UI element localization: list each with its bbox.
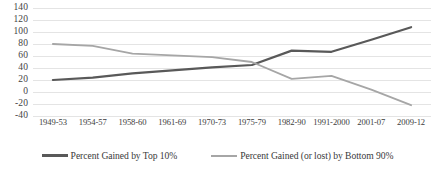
y-axis-tick-label: -40 [0, 111, 28, 121]
x-axis-tick-label: 1970-73 [198, 117, 226, 128]
legend-item[interactable]: Percent Gained by Top 10% [42, 150, 178, 161]
legend-label: Percent Gained (or lost) by Bottom 90% [240, 150, 393, 161]
y-axis-tick-labels: 140120100806040200-20-40 [0, 0, 28, 146]
x-axis-tick-label: 1982-90 [278, 117, 306, 128]
series-line-1 [53, 44, 411, 105]
x-axis-tick-label: 1958-60 [119, 117, 147, 128]
y-axis-tick-label: 20 [0, 75, 28, 85]
x-axis-tick-label: 1954-57 [79, 117, 107, 128]
x-axis-tick-label: 1949-53 [39, 117, 67, 128]
y-axis-tick-label: 40 [0, 63, 28, 73]
x-axis-tick-label: 1975-79 [238, 117, 266, 128]
series-lines [53, 27, 411, 105]
x-axis-tick-label: 1991-2000 [313, 117, 349, 128]
x-axis-tick-label: 1961-69 [158, 117, 186, 128]
legend-label: Percent Gained by Top 10% [71, 150, 178, 161]
chart-legend: Percent Gained by Top 10%Percent Gained … [0, 150, 435, 170]
x-axis-tick-label: 2009-12 [397, 117, 425, 128]
x-axis-tick-label: 2001-07 [357, 117, 385, 128]
x-axis-tick-labels: 1949-531954-571958-601961-691970-731975-… [33, 117, 431, 131]
gridlines [33, 8, 431, 116]
y-axis-tick-label: -20 [0, 99, 28, 109]
y-axis-tick-label: 0 [0, 87, 28, 97]
y-axis-tick-label: 140 [0, 3, 28, 13]
line-chart: 140120100806040200-20-40 1949-531954-571… [0, 0, 435, 175]
y-axis-tick-label: 80 [0, 39, 28, 49]
y-axis-tick-label: 120 [0, 15, 28, 25]
y-axis-tick-label: 60 [0, 51, 28, 61]
legend-item[interactable]: Percent Gained (or lost) by Bottom 90% [211, 150, 393, 161]
line-swatch-dark [42, 154, 68, 157]
y-axis-tick-label: 100 [0, 27, 28, 37]
series-line-0 [53, 27, 411, 80]
line-swatch-light [211, 155, 237, 157]
